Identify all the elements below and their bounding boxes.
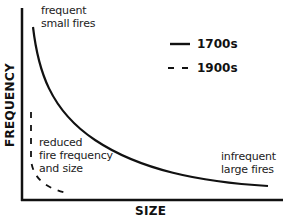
annotation-frequent: frequent [41,5,86,17]
annotation-small-fires: small fires [41,18,95,30]
legend-1700s: 1700s [197,37,238,51]
annotation-reduced: reduced [39,137,82,149]
x-axis-label: SIZE [135,204,166,218]
annotation-large-fires: large fires [221,164,274,176]
annotation-and-size: and size [39,163,83,175]
y-axis-label: FREQUENCY [3,67,17,147]
chart-canvas [0,0,289,223]
annotation-fire-frequency: fire frequency [39,150,113,162]
annotation-infrequent: infrequent [221,151,276,163]
legend-1900s: 1900s [197,61,238,75]
